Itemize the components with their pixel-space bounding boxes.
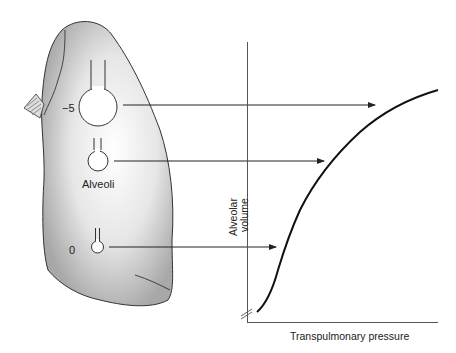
pressure-volume-curve xyxy=(257,90,438,312)
pressure-label-bottom: 0 xyxy=(69,244,75,256)
axis-break-icon xyxy=(241,309,252,319)
alveoli-label: Alveoli xyxy=(82,178,114,190)
pressure-label-top: −5 xyxy=(62,102,75,114)
pv-graph: Alveolar volume Transpulmonary pressure xyxy=(227,42,438,342)
lung-illustration: −5 Alveoli 0 xyxy=(24,22,173,306)
bronchus-icon xyxy=(24,94,44,118)
lung-pressure-volume-diagram: −5 Alveoli 0 Alveolar volume Transpulmon… xyxy=(0,0,456,353)
y-axis-label-line2: volume xyxy=(238,198,250,232)
x-axis-label: Transpulmonary pressure xyxy=(290,330,409,342)
